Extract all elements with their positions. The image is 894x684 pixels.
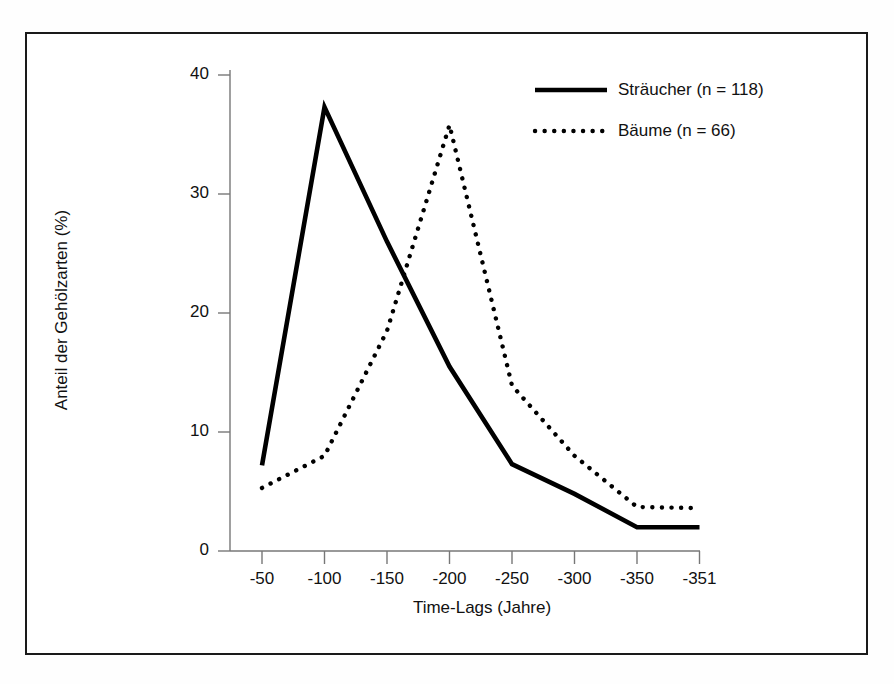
y-tick-marks: [218, 75, 230, 551]
x-tick-label: -150: [352, 569, 422, 589]
legend-label-straeucher: Sträucher (n = 118): [618, 80, 764, 100]
x-tick-label: -100: [290, 569, 360, 589]
x-tick-label: -200: [415, 569, 485, 589]
x-tick-label: -351: [665, 569, 735, 589]
series-line-straeucher: [262, 107, 700, 527]
y-tick-label: 20: [155, 302, 209, 322]
x-tick-marks: [262, 551, 700, 564]
axis-lines: [230, 70, 700, 551]
legend-label-baeume: Bäume (n = 66): [618, 121, 736, 141]
y-tick-label: 0: [155, 540, 209, 560]
legend-swatches: [535, 90, 607, 131]
y-tick-label: 40: [155, 64, 209, 84]
x-tick-label: -300: [540, 569, 610, 589]
x-axis-title: Time-Lags (Jahre): [262, 598, 702, 618]
y-tick-label: 10: [155, 421, 209, 441]
series-line-baeume: [262, 125, 700, 508]
y-axis-title: Anteil der Gehölzarten (%): [52, 180, 72, 440]
figure-canvas: Anteil der Gehölzarten (%) Time-Lags (Ja…: [0, 0, 894, 684]
y-tick-label: 30: [155, 183, 209, 203]
x-tick-label: -250: [477, 569, 547, 589]
x-tick-label: -50: [227, 569, 297, 589]
x-tick-label: -350: [602, 569, 672, 589]
